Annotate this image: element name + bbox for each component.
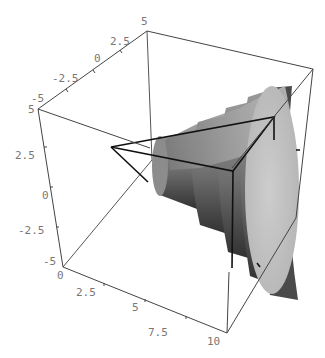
svg-text:0: 0 (57, 269, 64, 282)
x-axis-labels: 0 2.5 5 7.5 10 (57, 269, 220, 348)
y-axis-labels: -5 -2.5 0 2.5 5 (31, 15, 148, 105)
stepped-cone (152, 86, 299, 300)
svg-text:-2.5: -2.5 (18, 224, 45, 237)
svg-text:-2.5: -2.5 (52, 72, 79, 85)
svg-text:2.5: 2.5 (110, 35, 130, 48)
svg-text:10: 10 (207, 335, 220, 348)
svg-text:0: 0 (94, 52, 101, 65)
svg-text:5: 5 (132, 301, 139, 314)
svg-text:0: 0 (42, 189, 49, 202)
svg-text:5: 5 (28, 103, 35, 116)
svg-text:-5: -5 (43, 255, 56, 268)
svg-text:2.5: 2.5 (76, 286, 96, 299)
svg-text:5: 5 (141, 15, 148, 28)
svg-text:2.5: 2.5 (15, 149, 35, 162)
svg-text:7.5: 7.5 (148, 326, 168, 339)
3d-plot: -5 -2.5 0 2.5 5 5 2.5 0 -2.5 -5 0 2.5 5 … (0, 0, 325, 358)
